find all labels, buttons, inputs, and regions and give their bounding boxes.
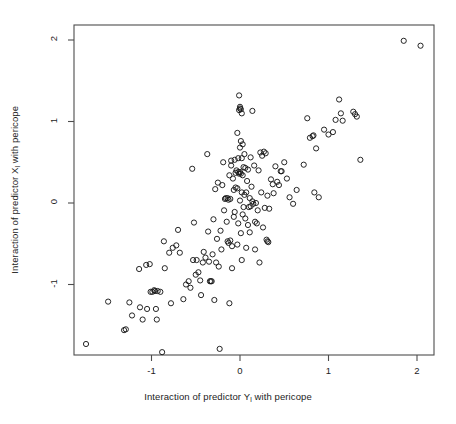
y-axis-title-main: Interaction of predictor X	[9, 168, 20, 274]
data-point	[284, 176, 289, 181]
y-axis-ticks	[68, 40, 74, 285]
data-point	[248, 155, 253, 160]
data-point	[231, 214, 236, 219]
data-point	[340, 118, 345, 123]
data-point	[227, 301, 232, 306]
x-axis-title: Interaction of predictor Yl with pericop…	[0, 391, 456, 403]
y-tick-label: 1	[48, 109, 59, 131]
data-point	[212, 297, 217, 302]
data-point	[271, 191, 276, 196]
data-point	[210, 252, 215, 257]
data-point	[137, 266, 142, 271]
plot-canvas	[0, 0, 456, 424]
data-point	[221, 160, 226, 165]
data-point	[188, 285, 193, 290]
data-point	[137, 305, 142, 310]
data-point	[242, 152, 247, 157]
data-point	[418, 43, 423, 48]
data-point	[167, 250, 172, 255]
data-point	[252, 163, 257, 168]
data-point	[140, 317, 145, 322]
data-point	[333, 117, 338, 122]
data-point	[235, 242, 240, 247]
data-point	[358, 157, 363, 162]
data-point	[229, 266, 234, 271]
x-tick-label: 0	[237, 365, 242, 376]
data-point	[217, 346, 222, 351]
data-point	[129, 313, 134, 318]
data-point	[216, 264, 221, 269]
data-point	[191, 220, 196, 225]
data-point	[282, 160, 287, 165]
plot-frame	[74, 25, 434, 355]
data-point	[201, 249, 206, 254]
data-point	[235, 130, 240, 135]
data-point	[338, 111, 343, 116]
data-point	[214, 236, 219, 241]
x-tick-label: -1	[147, 365, 155, 376]
data-point	[221, 208, 226, 213]
data-point	[401, 38, 406, 43]
data-point	[257, 260, 262, 265]
data-point	[190, 166, 195, 171]
data-point	[161, 239, 166, 244]
data-point	[330, 129, 335, 134]
data-point	[162, 266, 167, 271]
data-point	[211, 217, 216, 222]
plot-border	[74, 25, 434, 355]
y-axis-title-wrapper: Interaction of predictor Xl with pericop…	[0, 0, 30, 380]
data-point	[200, 260, 205, 265]
scatter-plot-figure: -1012 -1012 Interaction of predictor Yl …	[0, 0, 456, 424]
data-point	[237, 198, 242, 203]
data-point	[232, 209, 237, 214]
data-point	[144, 262, 149, 267]
x-tick-label: 1	[326, 365, 331, 376]
data-point	[238, 231, 243, 236]
data-point	[273, 164, 278, 169]
data-point	[206, 259, 211, 264]
data-point	[255, 208, 260, 213]
x-axis-title-main: Interaction of predictor Y	[144, 391, 250, 402]
y-axis-title-subscript: l	[14, 166, 21, 168]
data-point	[83, 341, 88, 346]
data-point	[301, 162, 306, 167]
data-point	[144, 306, 149, 311]
data-point	[218, 228, 223, 233]
data-point	[305, 116, 310, 121]
data-point	[287, 195, 292, 200]
data-point	[213, 187, 218, 192]
data-point	[265, 193, 270, 198]
data-point	[321, 127, 326, 132]
data-point	[206, 229, 211, 234]
data-point	[252, 247, 257, 252]
data-point	[244, 178, 249, 183]
data-point	[241, 204, 246, 209]
data-point	[198, 292, 203, 297]
data-point	[239, 257, 244, 262]
x-axis-ticks	[152, 355, 418, 361]
data-point	[181, 297, 186, 302]
data-point	[294, 187, 299, 192]
data-point	[291, 201, 296, 206]
data-point	[243, 216, 248, 221]
y-tick-label: 2	[48, 28, 59, 50]
data-point	[123, 327, 128, 332]
y-tick-label: -1	[48, 272, 59, 294]
data-points	[83, 38, 423, 355]
y-axis-title: Interaction of predictor Xl with pericop…	[9, 20, 21, 360]
data-point	[256, 168, 261, 173]
data-point	[229, 244, 234, 249]
data-point	[224, 219, 229, 224]
data-point	[153, 306, 158, 311]
data-point	[160, 350, 165, 355]
data-point	[194, 257, 199, 262]
data-point	[175, 227, 180, 232]
data-point	[198, 278, 203, 283]
data-point	[244, 245, 249, 250]
data-point	[260, 225, 265, 230]
data-point	[245, 222, 250, 227]
data-point	[247, 230, 252, 235]
data-point	[219, 247, 224, 252]
data-point	[230, 176, 235, 181]
data-point	[250, 108, 255, 113]
